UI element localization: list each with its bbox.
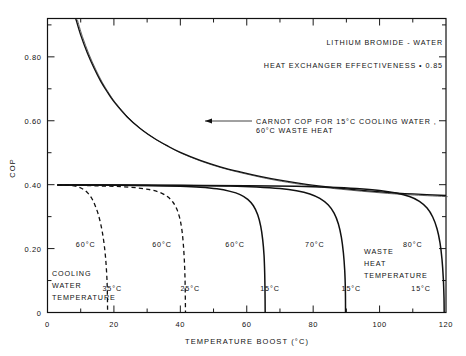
curve-label-lbl-80-15-bot: 15°C	[411, 284, 431, 293]
curve-label-lbl-60-35-bot: 35°C	[102, 284, 122, 293]
curve-label-lbl-60-15-top: 60°C	[225, 240, 245, 249]
curve-label-lbl-60-25-bot: 25°C	[180, 284, 200, 293]
x-tick-label-0: 0	[45, 320, 50, 329]
annotation-cooling-water-line-1: COOLING	[52, 269, 91, 278]
chart-figure: 02040608010012000.200.400.600.80 60°C35°…	[0, 0, 466, 356]
annotation-carnot-line-2: 60°C WASTE HEAT	[256, 126, 333, 135]
annotation-lithium-bromide-water: LITHIUM BROMIDE - WATER	[326, 38, 443, 47]
annotation-waste-heat-line-3: TEMPERATURE	[364, 271, 428, 280]
chart-background	[0, 0, 466, 356]
annotation-cooling-water-line-3: TEMPERATURE	[52, 293, 116, 302]
annotation-waste-heat-line-1: WASTE	[364, 247, 394, 256]
x-tick-label-100: 100	[372, 320, 386, 329]
x-tick-label-120: 120	[439, 320, 453, 329]
curve-label-lbl-60-15-bot: 15°C	[260, 284, 280, 293]
y-tick-label-0.2: 0.20	[25, 245, 42, 254]
annotation-heat-exchanger-effectiveness: HEAT EXCHANGER EFFECTIVENESS • 0.85	[264, 61, 443, 70]
x-axis-title: TEMPERATURE BOOST (°C)	[185, 337, 309, 346]
y-axis-title: COP	[8, 158, 17, 178]
curve-label-lbl-60-35-top: 60°C	[76, 240, 96, 249]
y-tick-label-0.8: 0.80	[25, 53, 42, 62]
curve-label-lbl-70-15-top: 70°C	[305, 240, 325, 249]
curve-label-lbl-80-15-top: 80°C	[403, 240, 423, 249]
x-tick-label-40: 40	[176, 320, 186, 329]
curve-label-lbl-60-25-top: 60°C	[152, 240, 172, 249]
annotation-cooling-water-line-2: WATER	[52, 281, 82, 290]
annotation-carnot-line-1: CARNOT COP FOR 15°C COOLING WATER ,	[256, 117, 437, 126]
y-tick-label-0: 0	[37, 309, 42, 318]
curve-label-lbl-70-15-bot: 15°C	[342, 284, 362, 293]
annotation-waste-heat-line-2: HEAT	[364, 259, 386, 268]
y-tick-label-0.4: 0.40	[25, 181, 42, 190]
cop-vs-temperature-boost-chart: 02040608010012000.200.400.600.80 60°C35°…	[0, 0, 466, 356]
x-tick-label-80: 80	[308, 320, 318, 329]
y-tick-label-0.6: 0.60	[25, 117, 42, 126]
x-tick-label-20: 20	[109, 320, 119, 329]
x-tick-label-60: 60	[242, 320, 252, 329]
